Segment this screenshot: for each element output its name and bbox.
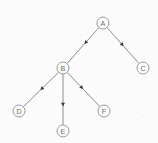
graph-diagram: ABCDEF (0, 0, 158, 143)
graph-edge-a-b (67, 27, 99, 63)
graph-edge-b-e (61, 74, 65, 125)
node-label-e: E (61, 127, 66, 136)
graph-edge-b-d (23, 72, 58, 107)
node-label-b: B (61, 64, 66, 73)
graph-edge-a-c (107, 27, 139, 63)
node-label-f: F (102, 107, 107, 116)
node-label-d: D (16, 107, 21, 116)
graph-canvas: ABCDEF (0, 0, 158, 143)
edge-arrowhead-b-e (61, 103, 65, 107)
graph-node-f[interactable]: F (98, 105, 110, 117)
graph-node-d[interactable]: D (13, 105, 25, 117)
graph-node-c[interactable]: C (137, 62, 149, 74)
graph-node-e[interactable]: E (57, 125, 69, 137)
node-label-c: C (140, 64, 145, 73)
node-label-a: A (101, 19, 106, 28)
edges-layer (23, 27, 139, 125)
graph-node-a[interactable]: A (97, 17, 109, 29)
graph-node-b[interactable]: B (57, 62, 69, 74)
nodes-layer: ABCDEF (13, 17, 149, 137)
graph-edge-b-f (67, 72, 100, 106)
